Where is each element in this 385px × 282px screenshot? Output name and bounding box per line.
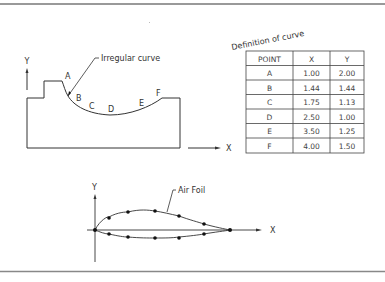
cell-point: B [267,84,272,93]
table-row: A 1.00 2.00 [267,69,356,78]
cell-x: 2.50 [303,113,320,122]
airfoil-lower-surface [95,230,230,238]
irregular-curve-label: Irregular curve [101,54,160,63]
x-axis-arrowhead-icon [256,229,262,232]
upper-point [153,209,157,213]
upper-point [126,210,130,214]
irregular-curve-figure: Y Irregular curve A B C D E F X [24,54,233,153]
cell-y: 1.00 [339,113,356,122]
y-axis-label: Y [24,57,30,66]
table-row: B 1.44 1.44 [267,84,356,93]
leader-line [68,58,99,96]
airfoil-label: Air Foil [178,186,205,195]
airfoil-upper-surface [95,210,230,230]
leading-edge-point [93,228,97,232]
leader-line [167,190,176,212]
cell-point: A [267,69,273,78]
x-axis-arrowhead-icon [215,147,221,150]
lower-point [177,236,181,240]
y-axis-arrowhead-icon [94,194,97,199]
header-point: POINT [258,55,281,64]
point-b-label: B [76,94,82,103]
header-y: Y [344,55,350,64]
cell-y: 1.44 [339,84,356,93]
stray-dot [149,22,150,23]
lower-point [126,235,130,239]
cell-x: 1.75 [303,98,320,107]
table-row: D 2.50 1.00 [267,113,356,122]
cell-point: D [267,113,273,122]
point-e-label: E [139,99,144,108]
curve-definition-table: Definition of curve POINT X Y A 1.00 2.0… [231,29,364,153]
x-axis-label: X [270,226,276,235]
cell-y: 1.13 [339,98,356,107]
trailing-edge-point [228,228,232,232]
header-x: X [309,55,314,64]
cell-point: C [267,98,272,107]
table-row: C 1.75 1.13 [267,98,356,107]
cell-y: 1.25 [339,127,356,136]
x-axis-label: X [226,144,232,153]
upper-point [177,214,181,218]
table-caption: Definition of curve [231,29,305,52]
table-row: E 3.50 1.25 [267,127,355,136]
point-a-label: A [65,72,71,81]
upper-point [202,222,206,226]
cell-x: 4.00 [303,142,320,151]
table-row: F 4.00 1.50 [267,142,355,151]
drawing-canvas: Y Irregular curve A B C D E F X Definiti… [0,0,385,282]
lower-point [202,232,206,236]
cell-y: 2.00 [339,69,356,78]
cell-x: 3.50 [303,127,320,136]
cell-point: F [267,142,271,151]
upper-point [107,216,111,220]
y-axis-arrowhead-icon [26,68,29,73]
y-axis-label: Y [91,183,97,192]
point-c-label: C [89,102,95,111]
lower-point [107,232,111,236]
point-d-label: D [108,105,114,114]
cell-point: E [267,127,272,136]
cell-x: 1.44 [303,84,320,93]
lower-point [153,236,157,240]
point-f-label: F [156,89,161,98]
cell-x: 1.00 [303,69,320,78]
airfoil-figure: Y X Air Foil [87,183,276,262]
cell-y: 1.50 [339,142,356,151]
